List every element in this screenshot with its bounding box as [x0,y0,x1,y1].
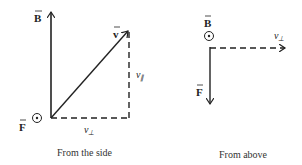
label-b-top: B [204,17,212,29]
velocity-vector [51,31,128,118]
force-dot-icon [36,117,38,119]
label-v-side: v [113,28,119,40]
side-view-panel: B v F v∥ v⊥ From the side [19,11,144,158]
label-v-perp-top: v⊥ [274,30,284,43]
label-v-perp-side: v⊥ [84,124,94,137]
caption-side: From the side [57,147,113,158]
caption-top: From above [219,149,268,160]
vector-diagram: B v F v∥ v⊥ From the side B v⊥ F From ab… [0,0,302,165]
label-f-top: F [196,86,203,98]
b-dot-icon [208,35,210,37]
label-b-side: B [34,12,42,24]
top-view-panel: B v⊥ F From above [196,16,285,160]
label-f-side: F [19,121,26,133]
label-v-parallel: v∥ [136,69,144,82]
